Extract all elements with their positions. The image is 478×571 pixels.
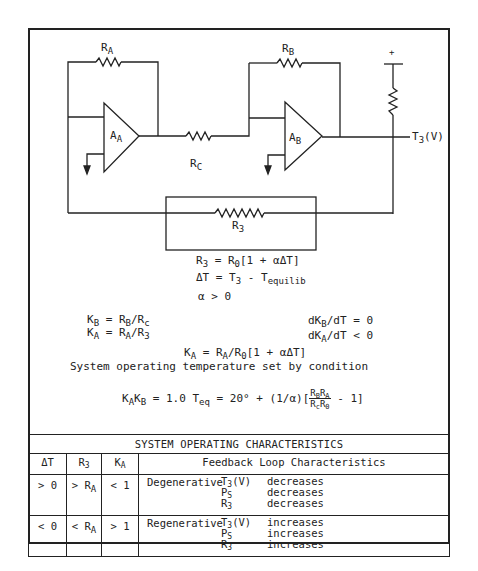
effect-change: increases [267, 539, 324, 550]
equation-kb: KB = RB/Rc [87, 313, 150, 326]
equation-ka: KA = RA/R3 [87, 326, 150, 339]
label-rc: RC [190, 158, 202, 170]
cell-delta-t: < 0 [29, 516, 67, 557]
equation-dkb-dt: dKB/dT = 0 [308, 314, 373, 327]
resistor-supply-icon [389, 88, 397, 115]
table-title: SYSTEM OPERATING CHARACTERISTICS [29, 435, 450, 454]
effect-variable: R3 [221, 539, 251, 550]
resistor-r3-icon [215, 209, 264, 217]
table-header-row: ΔT R3 KA Feedback Loop Characteristics [29, 454, 450, 475]
table-row: > 0 > RA < 1 Degenerative T3(V) PS R3 de… [29, 475, 450, 516]
feedback-mode: Regenerative [147, 517, 223, 529]
resistor-ra-icon [96, 58, 121, 66]
col-header-ka: KA [102, 454, 139, 475]
resistor-rc-icon [186, 132, 211, 140]
table-row: < 0 < RA > 1 Regenerative T3(V) PS R3 in… [29, 516, 450, 557]
label-opamp-a: AA [110, 130, 122, 142]
cell-delta-t: > 0 [29, 475, 67, 516]
equation-r3-definition: R3 = R0[1 + αΔT] [196, 254, 300, 267]
operating-characteristics-table: SYSTEM OPERATING CHARACTERISTICS ΔT R3 K… [28, 434, 450, 557]
condition-text: System operating temperature set by cond… [70, 360, 368, 373]
equation-dka-dt: dKA/dT < 0 [308, 329, 373, 342]
feedback-mode: Degenerative [147, 476, 223, 488]
col-header-r3: R3 [67, 454, 102, 475]
col-header-feedback: Feedback Loop Characteristics [139, 454, 450, 475]
cell-r3: > RA [67, 475, 102, 516]
cell-feedback: Degenerative T3(V) PS R3 decreases decre… [139, 475, 450, 516]
equation-teq: KAKB = 1.0 Teq = 20° + (1/α)[RBRARcR0 - … [122, 388, 364, 409]
equation-ka-full: KA = RA/R0[1 + αΔT] [184, 346, 306, 359]
label-opamp-b: AB [289, 132, 301, 144]
label-rb: RB [282, 43, 294, 55]
label-ra: RA [101, 42, 113, 54]
cell-ka: > 1 [102, 516, 139, 557]
resistor-rb-icon [277, 59, 302, 67]
label-t3-output: T3(V) [412, 131, 444, 143]
col-header-delta-t: ΔT [29, 454, 67, 475]
equation-alpha: α > 0 [198, 290, 231, 303]
effect-change: decreases [267, 498, 324, 509]
cell-ka: < 1 [102, 475, 139, 516]
teq-fraction: RBRARcR0 [309, 388, 330, 409]
label-r3: R3 [232, 220, 244, 232]
effect-variable: R3 [221, 498, 251, 509]
label-supply-plus: + [389, 46, 394, 58]
cell-r3: < RA [67, 516, 102, 557]
equation-delta-t: ΔT = T3 - Tequilib [196, 271, 306, 284]
cell-feedback: Regenerative T3(V) PS R3 increases incre… [139, 516, 450, 557]
